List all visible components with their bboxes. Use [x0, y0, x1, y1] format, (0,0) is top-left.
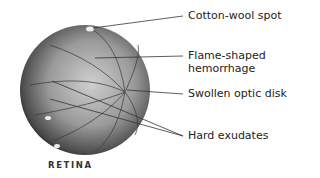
label-line-2: hemorrhage [188, 62, 266, 75]
label-cotton-wool-spot: Cotton-wool spot [188, 9, 281, 22]
label-flame-shaped-hemorrhage: Flame-shaped hemorrhage [188, 49, 266, 75]
label-swollen-optic-disk: Swollen optic disk [188, 87, 287, 100]
label-line-1: Flame-shaped [188, 49, 266, 62]
label-hard-exudates: Hard exudates [188, 129, 268, 142]
caption: RETINA [48, 160, 93, 170]
